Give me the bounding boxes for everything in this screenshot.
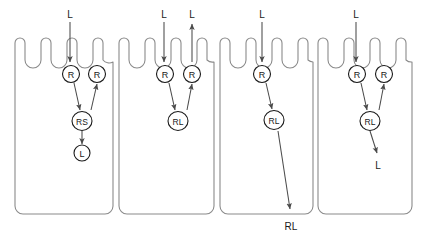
panel-1-edge-r-left-to-rs (74, 83, 80, 110)
node-r-p3-label: R (259, 70, 266, 80)
panel-2-outline (119, 38, 214, 214)
panel-4-edge-r-right-to-rl (379, 84, 384, 110)
panel-1-top-label-l: L (67, 9, 73, 20)
panel-1-edge-r-right-to-rs (91, 84, 97, 110)
lineage-diagram: R R RS L L R R RL L L (0, 0, 422, 241)
panel-2-top-label-l-right: L (189, 9, 195, 20)
node-r-p4-right-label: R (381, 70, 388, 80)
node-l-p1-label: L (79, 149, 84, 159)
node-r-p1-left-label: R (68, 70, 75, 80)
panel-4-bottom-label-l: L (375, 160, 381, 171)
panel-3-edge-r-to-rl (266, 83, 272, 109)
panel-4-edge-r-left-to-rl (361, 83, 367, 110)
panel-3: R RL L RL (220, 9, 313, 232)
node-rl-p3-label: RL (269, 116, 280, 126)
panel-3-top-label-l: L (259, 9, 265, 20)
node-r-p4-left-label: R (354, 70, 361, 80)
panel-2-top-label-l-left: L (161, 9, 167, 20)
node-rs-p1-label: RS (76, 117, 88, 127)
node-r-p2-left-label: R (162, 70, 169, 80)
node-r-p1-right-label: R (94, 70, 101, 80)
diagram-canvas: R R RS L L R R RL L L (0, 0, 422, 241)
panel-4: R R RL L L (318, 9, 412, 215)
panel-1-outline (15, 38, 113, 214)
node-rl-p4-label: RL (365, 117, 376, 127)
panel-3-edge-rl-to-bottom-label (278, 131, 290, 209)
node-r-p2-right-label: R (189, 70, 196, 80)
node-rl-p2-label: RL (173, 117, 184, 127)
panel-1: R R RS L L (15, 9, 113, 215)
panel-2: R R RL L L (119, 9, 214, 215)
panel-2-edge-r-right-to-rl (187, 84, 192, 110)
panel-3-bottom-label-rl: RL (285, 221, 298, 232)
panel-4-top-label-l: L (353, 9, 359, 20)
panel-4-edge-rl-to-bottom-label (370, 131, 377, 153)
panel-2-edge-r-left-to-rl (169, 83, 175, 110)
